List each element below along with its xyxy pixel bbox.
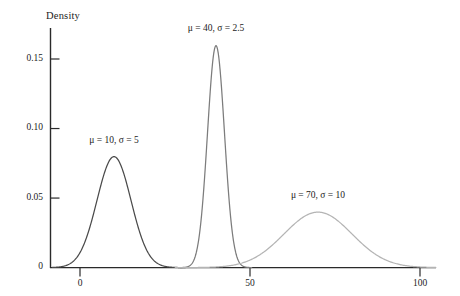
y-tick-label-015: 0.15 [13, 53, 43, 63]
y-tick-label-010: 0.10 [13, 122, 43, 132]
axis-lines [50, 28, 436, 268]
density-curve-2 [175, 212, 436, 267]
curve-annotation-mu70: μ = 70, σ = 10 [258, 190, 378, 200]
curve-annotation-mu40: μ = 40, σ = 2.5 [156, 23, 276, 33]
x-tick-label-0: 0 [60, 278, 100, 288]
density-curves [52, 46, 435, 268]
x-tick-label-50: 50 [230, 278, 270, 288]
y-tick-label-005: 0.05 [13, 192, 43, 202]
y-axis-title: Density [46, 10, 80, 21]
y-tick-label-0: 0 [13, 261, 43, 271]
density-curve-1 [180, 46, 251, 268]
curve-annotation-mu10: μ = 10, σ = 5 [54, 135, 174, 145]
density-curve-0 [52, 157, 185, 268]
y-axis-ticks [51, 59, 60, 198]
plot-canvas [0, 0, 460, 296]
density-plot-figure: Density 0 0.05 0.10 0.15 0 50 100 μ = 10… [0, 0, 460, 296]
x-tick-label-100: 100 [400, 278, 440, 288]
x-axis-ticks [80, 268, 420, 277]
